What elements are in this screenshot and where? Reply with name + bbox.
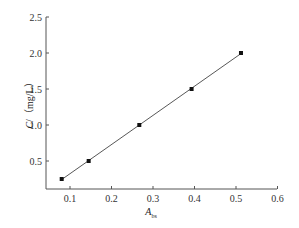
x-tick-label: 0.3 <box>147 193 160 204</box>
x-tick-label: 0.2 <box>105 193 118 204</box>
x-axis-title: Abs <box>144 206 157 219</box>
y-tick-label: 2.0 <box>30 48 43 59</box>
data-point-square-marker <box>190 87 194 91</box>
data-point-square-marker <box>87 159 91 163</box>
axes <box>46 17 277 189</box>
x-tick-label: 0.4 <box>188 193 201 204</box>
data-point-square-marker <box>239 51 243 55</box>
x-tick-label: 0.5 <box>230 193 243 204</box>
y-tick-label: 0.5 <box>30 156 43 167</box>
x-tick-label: 0.1 <box>64 193 77 204</box>
y-tick-label: 2.5 <box>30 12 43 23</box>
data-points <box>60 51 243 181</box>
x-tick-label: 0.6 <box>271 193 284 204</box>
data-point-square-marker <box>137 123 141 127</box>
y-axis-title: C/（mg/L） <box>24 77 35 128</box>
data-point-square-marker <box>60 177 64 181</box>
calibration-chart: 0.51.01.52.02.5 0.10.20.30.40.50.6 C/（mg… <box>0 0 299 228</box>
